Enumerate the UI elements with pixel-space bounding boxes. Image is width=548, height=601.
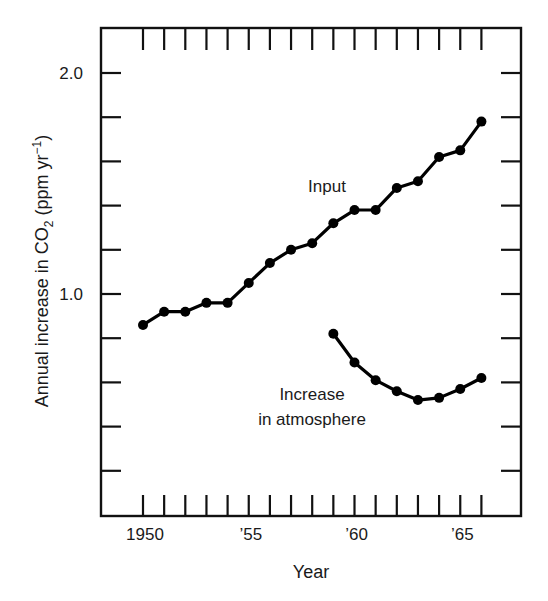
series-line	[143, 122, 481, 325]
data-point	[371, 375, 381, 385]
data-point	[434, 393, 444, 403]
data-point	[201, 298, 211, 308]
plot-frame	[101, 28, 521, 516]
y-tick-label: 2.0	[59, 64, 83, 83]
x-tick-label: ’55	[239, 525, 262, 544]
plot-border	[101, 28, 521, 516]
data-point	[286, 245, 296, 255]
y-axis-title: Annual increase in CO2 (ppm yr−1)	[30, 135, 56, 408]
data-point	[476, 373, 486, 383]
series-increase-in-atmosphere	[328, 329, 486, 405]
data-point	[476, 117, 486, 127]
chart-canvas: 1950’55’60’651.02.0 InputIncreasein atmo…	[0, 0, 548, 601]
data-point	[455, 384, 465, 394]
series-label: Increase	[279, 385, 344, 404]
y-axis-title-superscript: −1	[30, 140, 44, 154]
data-point	[328, 218, 338, 228]
chart: 1950’55’60’651.02.0 InputIncreasein atmo…	[0, 0, 548, 601]
axis-ticks	[101, 28, 521, 516]
data-series	[138, 117, 486, 405]
axis-tick-labels: 1950’55’60’651.02.0	[59, 64, 473, 544]
data-point	[392, 386, 402, 396]
x-tick-label: ’60	[345, 525, 368, 544]
data-point	[180, 307, 190, 317]
x-axis-title: Year	[293, 562, 329, 582]
x-tick-label: ’65	[451, 525, 474, 544]
series-label: in atmosphere	[258, 410, 366, 429]
data-point	[434, 152, 444, 162]
data-point	[350, 358, 360, 368]
y-axis-title-main: Annual increase in CO	[32, 227, 52, 407]
data-point	[223, 298, 233, 308]
series-label: Input	[308, 177, 346, 196]
data-point	[138, 320, 148, 330]
y-axis-title-end: )	[32, 135, 52, 141]
data-point	[455, 145, 465, 155]
series-input	[138, 117, 486, 330]
y-tick-label: 1.0	[59, 285, 83, 304]
data-point	[413, 395, 423, 405]
data-point	[328, 329, 338, 339]
data-point	[413, 176, 423, 186]
y-axis-title-units: (ppm yr	[32, 154, 52, 220]
data-point	[371, 205, 381, 215]
data-point	[392, 183, 402, 193]
data-point	[265, 258, 275, 268]
data-point	[244, 278, 254, 288]
data-point	[350, 205, 360, 215]
data-point	[159, 307, 169, 317]
x-tick-label: 1950	[126, 525, 164, 544]
data-point	[307, 238, 317, 248]
